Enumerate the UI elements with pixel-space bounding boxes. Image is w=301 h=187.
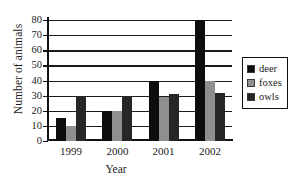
chart-legend: deerfoxesowls bbox=[242, 57, 288, 109]
y-tick-label-50: 50 bbox=[32, 60, 43, 71]
y-tick-label-80: 80 bbox=[32, 15, 43, 26]
legend-label: owls bbox=[259, 92, 279, 103]
y-tick-label-60: 60 bbox=[32, 45, 43, 56]
bar-group-2001 bbox=[149, 20, 179, 141]
bar-foxes-2001 bbox=[159, 97, 169, 141]
bar-chart-figure: Number of animals 01020304050607080 1999… bbox=[0, 0, 301, 187]
y-tick-label-40: 40 bbox=[32, 75, 43, 86]
legend-item-foxes: foxes bbox=[247, 76, 282, 90]
legend-swatch-deer-icon bbox=[247, 65, 255, 73]
legend-swatch-foxes-icon bbox=[247, 79, 255, 87]
bar-group-1999 bbox=[56, 20, 86, 141]
x-axis-title: Year bbox=[0, 163, 232, 175]
y-tick-label-10: 10 bbox=[32, 121, 43, 131]
bar-owls-2000 bbox=[122, 96, 132, 141]
x-tick-label-2001: 2001 bbox=[153, 145, 175, 157]
y-tick-mark-0 bbox=[43, 141, 48, 142]
x-tick-label-2002: 2002 bbox=[199, 145, 221, 157]
legend-label: foxes bbox=[259, 78, 282, 89]
bar-deer-1999 bbox=[56, 118, 66, 141]
bar-owls-2001 bbox=[169, 94, 179, 141]
legend-item-owls: owls bbox=[247, 90, 282, 104]
bar-deer-2001 bbox=[149, 81, 159, 142]
legend-item-deer: deer bbox=[247, 62, 282, 76]
y-tick-label-30: 30 bbox=[32, 90, 43, 101]
legend-swatch-owls-icon bbox=[247, 93, 255, 101]
legend-label: deer bbox=[259, 64, 277, 75]
y-tick-label-20: 20 bbox=[32, 105, 43, 116]
bar-groups bbox=[47, 20, 232, 141]
bar-foxes-2002 bbox=[205, 81, 215, 142]
y-tick-label-0: 0 bbox=[37, 136, 42, 147]
y-tick-label-70: 70 bbox=[32, 30, 43, 41]
bar-deer-2002 bbox=[195, 20, 205, 141]
plot-area: 01020304050607080 1999200020012002 bbox=[47, 20, 232, 141]
bar-foxes-1999 bbox=[66, 126, 76, 141]
bar-group-2002 bbox=[195, 20, 225, 141]
bar-owls-1999 bbox=[76, 96, 86, 141]
bar-deer-2000 bbox=[102, 111, 112, 141]
y-axis-title: Number of animals bbox=[12, 5, 24, 133]
bar-group-2000 bbox=[102, 20, 132, 141]
bar-foxes-2000 bbox=[112, 111, 122, 141]
x-tick-label-2000: 2000 bbox=[106, 145, 128, 157]
bar-owls-2002 bbox=[215, 93, 225, 141]
x-tick-label-1999: 1999 bbox=[60, 145, 82, 157]
